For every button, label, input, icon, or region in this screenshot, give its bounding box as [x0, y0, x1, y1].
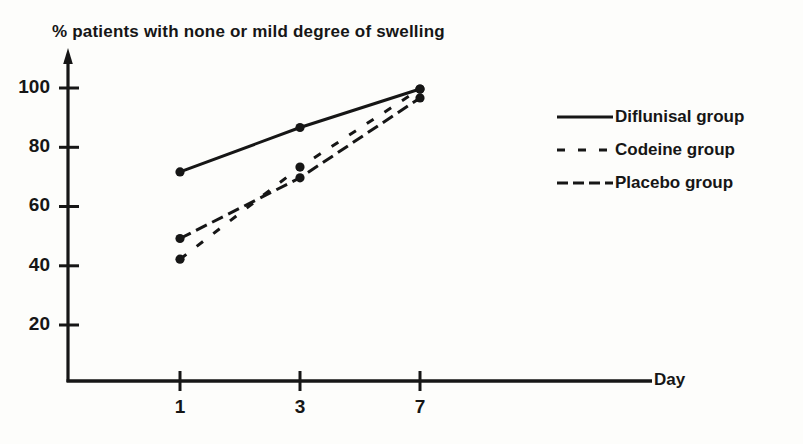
ytick-label-60: 60	[4, 194, 50, 216]
xtick-label-day-1: 1	[165, 396, 195, 418]
ytick-label-80: 80	[4, 135, 50, 157]
legend-item-diflunisal: Diflunisal group	[556, 100, 796, 133]
ytick-label-20: 20	[4, 313, 50, 335]
y-axis	[63, 48, 73, 382]
dense-dashed-line-swatch	[556, 176, 614, 190]
ytick-label-40: 40	[4, 254, 50, 276]
xtick-label-day-3: 3	[285, 396, 315, 418]
solid-line-swatch	[556, 110, 614, 124]
legend-item-placebo: Placebo group	[556, 166, 796, 199]
xtick-label-day-7: 7	[405, 396, 435, 418]
x-axis-title: Day	[654, 370, 685, 390]
legend-label-diflunisal: Diflunisal group	[615, 107, 744, 127]
legend-label-codeine: Codeine group	[615, 140, 735, 160]
sparse-dashed-line-swatch	[556, 143, 614, 157]
ytick-label-100: 100	[4, 76, 50, 98]
legend: Diflunisal group Codeine group Placebo g…	[556, 100, 796, 199]
legend-label-placebo: Placebo group	[615, 173, 733, 193]
legend-item-codeine: Codeine group	[556, 133, 796, 166]
chart-figure: % patients with none or mild degree of s…	[0, 0, 803, 444]
